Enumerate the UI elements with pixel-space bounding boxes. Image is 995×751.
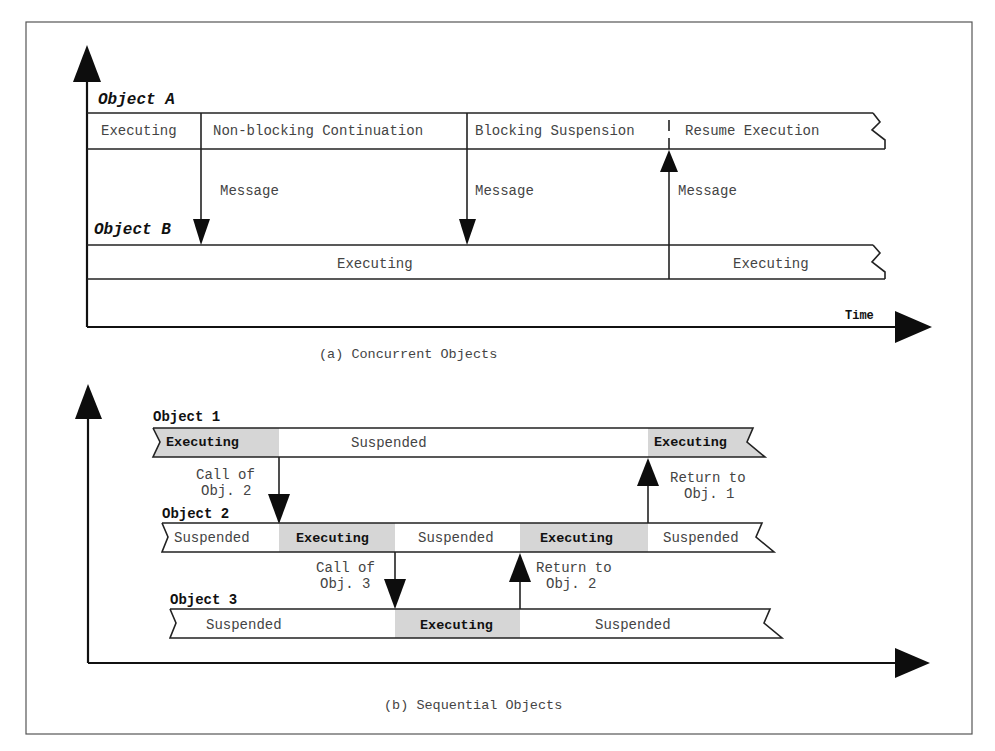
segment-suspended: Suspended: [595, 617, 671, 633]
object-2-timeline: Suspended Executing Suspended Executing …: [162, 523, 774, 552]
down-arrow-icon: [384, 579, 406, 609]
message-label: Message: [475, 183, 534, 199]
panel-sequential-objects: Object 1 Executing Suspended Executing C…: [75, 384, 930, 713]
segment-executing: Executing: [733, 256, 809, 272]
segment-executing: Executing: [540, 531, 613, 546]
right-arrow-icon: [895, 648, 930, 678]
object-1-label: Object 1: [153, 409, 220, 425]
return-label: Obj. 1: [684, 486, 734, 502]
down-arrow-icon: [193, 219, 210, 245]
object-b-label: Object B: [94, 221, 171, 239]
segment-executing: Executing: [337, 256, 413, 272]
right-arrow-icon: [895, 311, 932, 343]
caption-a: (a) Concurrent Objects: [319, 347, 497, 362]
caption-b: (b) Sequential Objects: [384, 698, 562, 713]
object-2-label: Object 2: [162, 506, 229, 522]
call-label: Obj. 2: [201, 483, 251, 499]
return-label: Return to: [670, 470, 746, 486]
time-label: Time: [845, 309, 874, 323]
down-arrow-icon: [459, 219, 476, 245]
up-arrow-icon: [660, 150, 678, 172]
object-a-label: Object A: [98, 91, 175, 109]
segment-suspended: Suspended: [206, 617, 282, 633]
object-b-timeline: Executing Executing: [87, 245, 885, 279]
segment-resume: Resume Execution: [685, 123, 819, 139]
segment-suspended: Suspended: [663, 530, 739, 546]
down-arrow-icon: [268, 494, 290, 524]
return-label: Obj. 2: [546, 576, 596, 592]
call-label: Call of: [316, 560, 375, 576]
concurrency-diagram: Time Object A Executing Non-blocking Con…: [0, 0, 995, 751]
up-arrow-icon: [509, 553, 531, 582]
segment-executing: Executing: [101, 123, 177, 139]
object-3-label: Object 3: [170, 592, 237, 608]
object-3-timeline: Suspended Executing Suspended: [170, 609, 782, 638]
up-arrow-icon: [75, 384, 102, 419]
object-1-timeline: Executing Suspended Executing: [153, 428, 765, 457]
up-arrow-icon: [73, 45, 101, 82]
up-arrow-icon: [637, 458, 659, 486]
segment-suspended: Suspended: [418, 530, 494, 546]
message-label: Message: [678, 183, 737, 199]
segment-suspended: Suspended: [351, 435, 427, 451]
return-label: Return to: [536, 560, 612, 576]
segment-executing: Executing: [654, 435, 727, 450]
segment-suspended: Suspended: [174, 530, 250, 546]
object-a-timeline: Executing Non-blocking Continuation Bloc…: [87, 113, 885, 149]
segment-non-blocking: Non-blocking Continuation: [213, 123, 423, 139]
segment-blocking: Blocking Suspension: [475, 123, 635, 139]
call-label: Call of: [196, 467, 255, 483]
call-label: Obj. 3: [320, 576, 370, 592]
segment-executing: Executing: [420, 618, 493, 633]
segment-executing: Executing: [296, 531, 369, 546]
segment-executing: Executing: [166, 435, 239, 450]
panel-concurrent-objects: Time Object A Executing Non-blocking Con…: [73, 45, 932, 362]
message-label: Message: [220, 183, 279, 199]
